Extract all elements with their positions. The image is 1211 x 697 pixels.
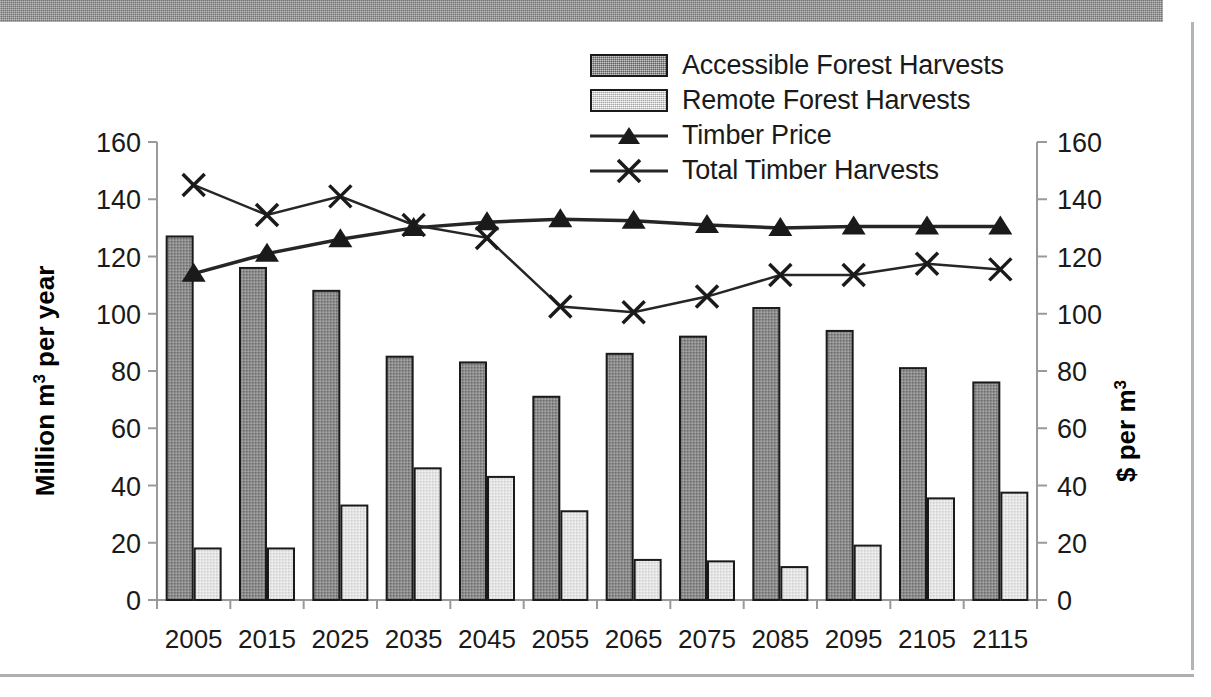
y-tick-label-right: 140	[1057, 185, 1102, 215]
y-tick-label-right: 100	[1057, 300, 1102, 330]
chart-figure: Accessible Forest Harvests Remote Forest…	[0, 22, 1163, 670]
bar-accessible[interactable]	[460, 362, 486, 600]
y-tick-label-left: 120	[96, 243, 141, 273]
bar-remote[interactable]	[268, 548, 294, 600]
x-tick-label: 2065	[605, 624, 663, 654]
line-timber-price[interactable]	[194, 219, 1001, 273]
bar-accessible[interactable]	[680, 337, 706, 600]
bar-accessible[interactable]	[167, 236, 193, 600]
y-axis-title-right: $ per m3	[1111, 380, 1141, 482]
y-tick-label-right: 60	[1057, 414, 1087, 444]
y-tick-label-right: 40	[1057, 472, 1087, 502]
bar-accessible[interactable]	[607, 354, 633, 600]
x-tick-label: 2005	[165, 624, 223, 654]
bar-accessible[interactable]	[973, 382, 999, 600]
svg-text:Million m3 per year: Million m3 per year	[30, 266, 60, 497]
chart-page: Accessible Forest Harvests Remote Forest…	[0, 0, 1211, 697]
y-tick-label-right: 160	[1057, 128, 1102, 158]
x-tick-label: 2085	[751, 624, 809, 654]
x-tick-label: 2025	[311, 624, 369, 654]
y-tick-label-left: 80	[111, 357, 141, 387]
y-tick-label-left: 100	[96, 300, 141, 330]
bar-remote[interactable]	[488, 477, 514, 600]
bar-remote[interactable]	[635, 560, 661, 600]
bar-accessible[interactable]	[900, 368, 926, 600]
y-tick-label-right: 120	[1057, 243, 1102, 273]
bar-remote[interactable]	[708, 561, 734, 600]
scan-frame-right	[1191, 22, 1194, 670]
scan-frame-bottom	[0, 674, 1194, 677]
x-tick-label: 2055	[531, 624, 589, 654]
bar-accessible[interactable]	[827, 331, 853, 600]
x-axis-title: Year	[570, 668, 625, 670]
x-tick-label: 2115	[972, 624, 1028, 654]
bar-accessible[interactable]	[240, 268, 266, 600]
scan-frame-top	[0, 0, 1163, 22]
x-tick-label: 2015	[238, 624, 296, 654]
y-tick-label-left: 40	[111, 472, 141, 502]
bar-remote[interactable]	[415, 468, 441, 600]
bar-accessible[interactable]	[533, 397, 559, 600]
y-tick-label-left: 160	[96, 128, 141, 158]
bar-remote[interactable]	[928, 498, 954, 600]
bar-accessible[interactable]	[753, 308, 779, 600]
y-tick-label-left: 0	[126, 586, 141, 616]
x-tick-label: 2105	[898, 624, 956, 654]
y-axis-title-left: Million m3 per year	[30, 266, 60, 497]
bar-remote[interactable]	[855, 546, 881, 600]
bar-remote[interactable]	[781, 567, 807, 600]
x-tick-label: 2035	[385, 624, 443, 654]
x-tick-label: 2095	[825, 624, 883, 654]
y-tick-label-left: 60	[111, 414, 141, 444]
bar-accessible[interactable]	[387, 357, 413, 600]
bar-remote[interactable]	[1001, 493, 1027, 600]
y-tick-label-right: 80	[1057, 357, 1087, 387]
x-tick-label: 2045	[458, 624, 516, 654]
x-tick-label: 2075	[678, 624, 736, 654]
y-tick-label-right: 20	[1057, 529, 1087, 559]
bar-remote[interactable]	[561, 511, 587, 600]
bar-accessible[interactable]	[313, 291, 339, 600]
svg-text:$ per m3: $ per m3	[1111, 380, 1141, 482]
bar-remote[interactable]	[195, 548, 221, 600]
y-tick-label-left: 20	[111, 529, 141, 559]
y-tick-label-left: 140	[96, 185, 141, 215]
y-tick-label-right: 0	[1057, 586, 1072, 616]
plot-canvas: 0204060801001201401600204060801001201401…	[0, 22, 1163, 670]
bar-remote[interactable]	[341, 506, 367, 600]
